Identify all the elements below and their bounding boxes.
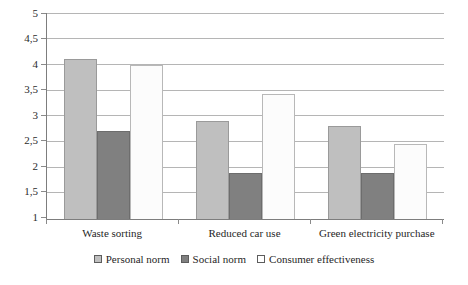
x-tick-mark bbox=[310, 219, 311, 224]
bar-chart-figure: 5 4,5 4 3,5 3 2,5 2 1,5 1 bbox=[0, 0, 468, 285]
legend-label: Social norm bbox=[193, 253, 246, 265]
y-tick-label: 4 bbox=[33, 59, 39, 70]
x-category-label-reduced-car-use: Reduced car use bbox=[178, 226, 310, 244]
legend-item-social-norm[interactable]: Social norm bbox=[181, 253, 246, 265]
legend-swatch-icon bbox=[257, 255, 265, 263]
y-tick-label: 3,5 bbox=[24, 84, 38, 95]
x-category-label-green-electricity-purchase: Green electricity purchase bbox=[311, 226, 443, 244]
bar-group-waste-sorting bbox=[47, 13, 179, 219]
x-tick-mark bbox=[442, 219, 443, 224]
bar-consumer-effectiveness-green-electricity-purchase[interactable] bbox=[394, 144, 427, 219]
legend: Personal norm Social norm Consumer effec… bbox=[0, 253, 468, 265]
legend-item-personal-norm[interactable]: Personal norm bbox=[94, 253, 170, 265]
legend-swatch-icon bbox=[94, 255, 102, 263]
y-axis: 5 4,5 4 3,5 3 2,5 2 1,5 1 bbox=[0, 0, 46, 232]
bar-social-norm-green-electricity-purchase[interactable] bbox=[361, 173, 394, 219]
y-tick-label: 3 bbox=[33, 110, 39, 121]
x-tick-mark bbox=[178, 219, 179, 224]
bar-consumer-effectiveness-waste-sorting[interactable] bbox=[130, 65, 163, 220]
y-tick-label: 1 bbox=[33, 212, 39, 223]
x-axis-ticks bbox=[46, 219, 443, 224]
legend-swatch-icon bbox=[181, 255, 189, 263]
y-tick-label: 2,5 bbox=[24, 135, 38, 146]
y-tick-label: 1,5 bbox=[24, 186, 38, 197]
y-tick-label: 5 bbox=[33, 8, 39, 19]
plot-area bbox=[46, 13, 444, 220]
bar-group-reduced-car-use bbox=[179, 13, 311, 219]
x-axis: Waste sorting Reduced car use Green elec… bbox=[46, 226, 443, 244]
bar-personal-norm-waste-sorting[interactable] bbox=[64, 59, 97, 219]
bar-social-norm-reduced-car-use[interactable] bbox=[229, 173, 262, 219]
y-tick-label: 2 bbox=[33, 161, 39, 172]
bar-consumer-effectiveness-reduced-car-use[interactable] bbox=[262, 94, 295, 219]
legend-label: Consumer effectiveness bbox=[269, 253, 374, 265]
bar-group-green-electricity-purchase bbox=[312, 13, 444, 219]
bar-personal-norm-green-electricity-purchase[interactable] bbox=[328, 126, 361, 219]
y-tick-label: 4,5 bbox=[24, 33, 38, 44]
bars-layer bbox=[47, 13, 444, 219]
bar-social-norm-waste-sorting[interactable] bbox=[97, 131, 130, 219]
bar-personal-norm-reduced-car-use[interactable] bbox=[196, 121, 229, 219]
legend-item-consumer-effectiveness[interactable]: Consumer effectiveness bbox=[257, 253, 374, 265]
legend-label: Personal norm bbox=[106, 253, 170, 265]
x-tick-mark bbox=[46, 219, 47, 224]
x-category-label-waste-sorting: Waste sorting bbox=[46, 226, 178, 244]
